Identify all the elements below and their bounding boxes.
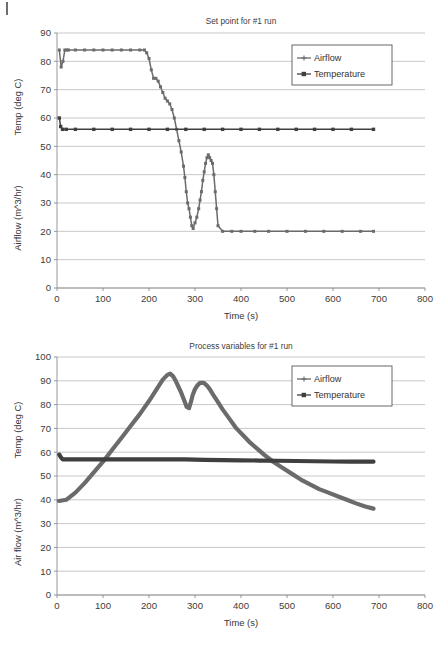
y-tick-label: 10 [40,254,51,265]
x-tick-label: 400 [233,600,249,611]
y-tick-label: 70 [40,423,51,434]
y-axis-title: Airflow (m^3/hr) [12,185,23,250]
y-tick-label: 30 [40,197,51,208]
y-tick-label: 20 [40,542,51,553]
x-tick-label: 600 [325,293,341,304]
chart-process-variables: Process variables for #1 run010203040506… [0,330,440,645]
x-tick-label: 100 [95,293,111,304]
legend-label-temperature: Temperature [314,69,365,79]
x-axis-title: Time (s) [224,310,258,321]
legend-marker-square-icon [302,393,306,397]
y-tick-label: 0 [46,589,51,600]
chart-legend[interactable]: AirflowTemperature [292,366,392,406]
legend-label-temperature: Temperature [314,390,365,400]
x-tick-label: 700 [371,600,387,611]
x-tick-label: 500 [279,293,295,304]
y-tick-label: 90 [40,375,51,386]
y-tick-label: 70 [40,84,51,95]
y-tick-label: 60 [40,447,51,458]
y-tick-label: 50 [40,141,51,152]
legend-label-airflow: Airflow [314,53,342,63]
x-tick-label: 0 [54,600,59,611]
x-tick-label: 800 [417,600,433,611]
series-line-temperature [59,118,373,129]
legend-label-airflow: Airflow [314,374,342,384]
y-tick-label: 30 [40,518,51,529]
x-tick-label: 200 [141,600,157,611]
legend-marker-square-icon [302,72,306,76]
y-tick-label: 80 [40,56,51,67]
chart-title: Process variables for #1 run [189,341,293,351]
y-tick-label: 40 [40,169,51,180]
x-tick-label: 400 [233,293,249,304]
y-axis-title: Air flow (m^3/hr) [12,498,23,566]
y-tick-label: 100 [35,351,51,362]
y-tick-label: 10 [40,566,51,577]
x-tick-label: 200 [141,293,157,304]
y-tick-label: 20 [40,226,51,237]
x-tick-label: 300 [187,600,203,611]
y-tick-label: 60 [40,112,51,123]
y-tick-label: 40 [40,494,51,505]
x-tick-label: 700 [371,293,387,304]
x-axis-title: Time (s) [224,617,258,628]
y-tick-label: 0 [46,282,51,293]
y-axis-title: Temp (deg C) [12,402,23,459]
x-tick-label: 800 [417,293,433,304]
y-tick-label: 80 [40,399,51,410]
y-tick-label: 50 [40,470,51,481]
x-tick-label: 300 [187,293,203,304]
y-tick-label: 90 [40,27,51,38]
chart-title: Set point for #1 run [206,16,277,26]
y-axis-title: Temp (deg C) [12,79,23,136]
chart-legend[interactable]: AirflowTemperature [292,45,392,85]
chart-set-point: Set point for #1 run01020304050607080900… [0,0,440,330]
x-tick-label: 100 [95,600,111,611]
x-tick-label: 600 [325,600,341,611]
x-tick-label: 500 [279,600,295,611]
x-tick-label: 0 [54,293,59,304]
